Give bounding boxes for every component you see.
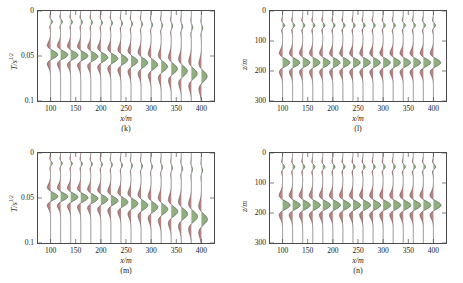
trace-peak-fill: [333, 153, 341, 243]
trace-trough-fill: [98, 11, 101, 101]
trace-peak-fill: [303, 11, 310, 101]
wiggle-traces-n: [270, 153, 446, 243]
trace-peak-fill: [383, 11, 390, 101]
x-tick-label: 150: [62, 104, 90, 113]
trace-trough-fill: [67, 11, 70, 101]
x-tick-label: 250: [344, 104, 372, 113]
trace-wiggle-line: [330, 11, 340, 101]
trace-peak-fill: [313, 11, 320, 101]
trace-peak-fill: [353, 153, 361, 243]
trace-peak-fill: [201, 153, 207, 243]
trace-wiggle-line: [430, 11, 440, 101]
y-axis-label: T/s1/2: [8, 195, 19, 212]
trace-peak-fill: [393, 153, 401, 243]
x-tick-label: 300: [369, 246, 397, 255]
trace-trough-fill: [108, 153, 111, 243]
trace-wiggle-line: [400, 11, 410, 101]
trace-trough-fill: [118, 153, 121, 243]
trace-peak-fill: [383, 153, 391, 243]
trace-wiggle-line: [279, 153, 290, 243]
y-tick-label: 0: [236, 6, 266, 15]
x-tick-label: 100: [269, 246, 297, 255]
x-tick-label: 200: [319, 104, 347, 113]
trace-peak-fill: [413, 11, 420, 101]
plot-area-n: [269, 152, 447, 244]
panel-n: 0100200300100150200250300350400z/mx/m(n): [232, 142, 463, 283]
x-axis-label: x/m: [37, 256, 215, 265]
panel-caption: (m): [37, 266, 215, 275]
trace-wiggle-line: [299, 153, 310, 243]
trace-wiggle-line: [138, 11, 148, 101]
wiggle-traces-k: [38, 11, 214, 101]
trace-trough-fill: [57, 153, 60, 243]
trace-peak-fill: [81, 153, 88, 243]
trace-peak-fill: [303, 153, 311, 243]
trace-peak-fill: [51, 11, 58, 101]
y-tick-label: 0: [236, 148, 266, 157]
trace-wiggle-line: [128, 11, 138, 101]
trace-wiggle-line: [329, 153, 340, 243]
trace-peak-fill: [403, 11, 410, 101]
trace-wiggle-line: [340, 153, 351, 243]
y-tick-label: 100: [236, 178, 266, 187]
trace-peak-fill: [283, 153, 291, 243]
panel-m: 00.050.1100150200250300350400T/s1/2x/m(m…: [0, 142, 231, 283]
trace-peak-fill: [343, 153, 351, 243]
x-tick-label: 100: [269, 104, 297, 113]
trace-peak-fill: [81, 11, 88, 101]
panel-caption: (l): [269, 124, 447, 133]
trace-wiggle-line: [289, 11, 299, 101]
trace-peak-fill: [403, 153, 411, 243]
trace-wiggle-line: [390, 11, 400, 101]
trace-trough-fill: [128, 11, 131, 101]
y-tick-label: 100: [236, 36, 266, 45]
trace-trough-fill: [57, 11, 60, 101]
trace-wiggle-line: [410, 153, 421, 243]
x-tick-label: 200: [87, 246, 115, 255]
trace-wiggle-line: [420, 153, 431, 243]
trace-peak-fill: [433, 11, 440, 101]
trace-peak-fill: [283, 11, 290, 101]
y-axis-label: T/s1/2: [8, 53, 19, 70]
x-tick-label: 400: [419, 104, 447, 113]
trace-wiggle-line: [289, 153, 300, 243]
x-tick-label: 350: [394, 104, 422, 113]
x-tick-label: 350: [394, 246, 422, 255]
plot-area-m: [37, 152, 215, 244]
y-axis-label: z/m: [240, 59, 249, 70]
trace-peak-fill: [333, 11, 340, 101]
trace-wiggle-line: [400, 153, 411, 243]
figure-panel-grid: 00.050.1100150200250300350400T/s1/2x/m(k…: [0, 0, 463, 283]
trace-trough-fill: [78, 153, 81, 243]
y-tick-label: 0.1: [4, 96, 34, 105]
x-tick-label: 300: [137, 246, 165, 255]
x-tick-label: 200: [319, 246, 347, 255]
trace-peak-fill: [373, 11, 380, 101]
trace-peak-fill: [151, 11, 157, 101]
trace-wiggle-line: [350, 153, 361, 243]
trace-peak-fill: [343, 11, 350, 101]
panel-k: 00.050.1100150200250300350400T/s1/2x/m(k…: [0, 0, 231, 141]
trace-wiggle-line: [360, 153, 371, 243]
x-axis-label: x/m: [37, 114, 215, 123]
trace-peak-fill: [393, 11, 400, 101]
trace-wiggle-line: [430, 153, 441, 243]
x-tick-label: 350: [162, 246, 190, 255]
trace-peak-fill: [161, 11, 167, 101]
trace-wiggle-line: [319, 153, 330, 243]
trace-peak-fill: [353, 11, 360, 101]
trace-trough-fill: [98, 153, 101, 243]
trace-wiggle-line: [350, 11, 360, 101]
trace-peak-fill: [323, 11, 330, 101]
trace-wiggle-line: [390, 153, 401, 243]
trace-peak-fill: [323, 153, 331, 243]
y-axis-label: z/m: [240, 201, 249, 212]
trace-peak-fill: [293, 11, 300, 101]
trace-peak-fill: [423, 153, 431, 243]
x-tick-label: 250: [112, 246, 140, 255]
x-tick-label: 400: [187, 104, 215, 113]
panel-l: 0100200300100150200250300350400z/mx/m(l): [232, 0, 463, 141]
trace-trough-fill: [118, 11, 121, 101]
y-tick-label: 0: [4, 6, 34, 15]
x-tick-label: 400: [187, 246, 215, 255]
